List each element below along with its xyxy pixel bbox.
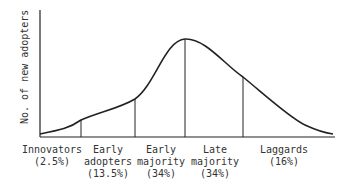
svg-text:Early: Early [146,144,176,155]
svg-text:(16%): (16%) [269,156,299,167]
category-innovators: Innovators (2.5%) [22,144,82,167]
svg-text:Late: Late [203,144,227,155]
category-laggards: Laggards (16%) [260,144,308,167]
svg-text:majority: majority [137,156,185,167]
svg-text:Innovators: Innovators [22,144,82,155]
bell-curve [40,39,333,134]
category-late-majority: Late majority (34%) [191,144,239,179]
svg-text:(34%): (34%) [146,168,176,179]
svg-text:majority: majority [191,156,239,167]
svg-text:Laggards: Laggards [260,144,308,155]
svg-text:adopters: adopters [84,156,132,167]
svg-text:(13.5%): (13.5%) [87,168,129,179]
svg-text:Early: Early [93,144,123,155]
svg-text:(2.5%): (2.5%) [34,156,70,167]
y-axis-label: No. of new adopters [19,10,30,124]
adoption-curve-diagram: No. of new adopters Innovators (2.5%) Ea… [0,0,350,184]
svg-text:(34%): (34%) [200,168,230,179]
category-early-majority: Early majority (34%) [137,144,185,179]
category-early-adopters: Early adopters (13.5%) [84,144,132,179]
